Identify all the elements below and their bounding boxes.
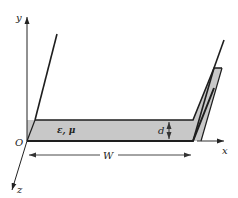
material-label: ε, μ — [57, 125, 76, 136]
z-axis — [12, 141, 27, 190]
z-axis-label: z — [16, 184, 23, 195]
waveguide-diagram: y z x O ε, μ d W — [0, 0, 238, 198]
thickness-label: d — [158, 125, 164, 136]
y-axis-label: y — [15, 12, 22, 23]
width-label: W — [103, 150, 114, 161]
left-back-edge — [35, 34, 57, 120]
origin-label: O — [15, 137, 23, 148]
slab-top-surface — [35, 68, 222, 120]
right-upper-edge — [214, 40, 224, 68]
x-axis-label: x — [222, 145, 228, 156]
